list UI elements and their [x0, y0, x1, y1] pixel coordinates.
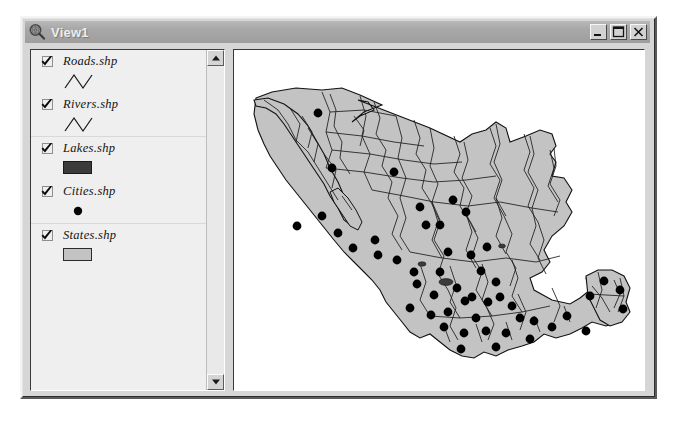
- legend-item-cities[interactable]: Cities.shp: [31, 180, 206, 223]
- city-point: [548, 323, 557, 332]
- window-title: View1: [51, 25, 89, 40]
- legend-scrollbar[interactable]: [206, 50, 224, 390]
- legend-group: States.shp: [31, 224, 206, 267]
- close-button[interactable]: [630, 24, 647, 40]
- legend-item-roads[interactable]: Roads.shp: [31, 50, 206, 93]
- city-point: [600, 277, 609, 286]
- city-point: [422, 221, 431, 230]
- legend-item-lakes[interactable]: Lakes.shp: [31, 137, 206, 180]
- city-point: [484, 298, 493, 307]
- city-point: [502, 329, 511, 338]
- magnifier-globe-icon: [28, 23, 46, 41]
- legend-group: Lakes.shp: [31, 137, 206, 224]
- city-point: [314, 109, 323, 118]
- scroll-down-arrow-icon: [212, 380, 220, 385]
- city-point: [496, 293, 505, 302]
- checkbox-cities[interactable]: [40, 185, 54, 199]
- minimize-button[interactable]: [590, 24, 607, 40]
- city-point: [582, 327, 591, 336]
- city-point: [416, 203, 425, 212]
- city-point: [318, 212, 327, 221]
- checkbox-roads[interactable]: [40, 55, 54, 69]
- city-point: [393, 256, 402, 265]
- check-icon: [39, 228, 55, 244]
- swatch-lakes: [63, 161, 92, 174]
- city-point: [413, 280, 422, 289]
- legend-layer-list[interactable]: Roads.shp: [31, 50, 206, 390]
- city-point: [328, 164, 337, 173]
- view-window: View1: [20, 16, 657, 399]
- legend-group: Roads.shp: [31, 50, 206, 137]
- legend-label-rivers: Rivers.shp: [63, 97, 118, 112]
- scroll-up-button[interactable]: [207, 50, 224, 66]
- legend-row[interactable]: Roads.shp: [31, 53, 206, 70]
- city-point: [371, 236, 380, 245]
- swatch-states: [63, 248, 92, 261]
- zigzag-line-icon: [63, 72, 103, 90]
- city-point: [453, 284, 462, 293]
- city-point: [390, 168, 399, 177]
- city-point: [430, 291, 439, 300]
- check-icon: [39, 97, 55, 113]
- legend-panel: Roads.shp: [30, 49, 225, 391]
- map-view-panel[interactable]: [233, 49, 645, 391]
- legend-symbol-lakes: [31, 157, 206, 178]
- legend-row[interactable]: Cities.shp: [31, 183, 206, 200]
- zigzag-line-icon: [63, 115, 103, 133]
- city-point: [440, 323, 449, 332]
- legend-item-rivers[interactable]: Rivers.shp: [31, 93, 206, 136]
- city-point: [457, 345, 466, 354]
- checkbox-states[interactable]: [40, 229, 54, 243]
- mexico-map[interactable]: [234, 50, 644, 390]
- city-point: [436, 268, 445, 277]
- city-point: [526, 335, 535, 344]
- scroll-up-arrow-icon: [212, 56, 220, 61]
- city-point: [477, 267, 486, 276]
- city-point: [293, 222, 302, 231]
- screenshot-root: View1: [0, 0, 677, 423]
- legend-label-roads: Roads.shp: [63, 54, 117, 69]
- city-point: [492, 278, 501, 287]
- city-point: [483, 243, 492, 252]
- city-point: [619, 305, 628, 314]
- legend-item-states[interactable]: States.shp: [31, 224, 206, 267]
- legend-row[interactable]: Rivers.shp: [31, 96, 206, 113]
- city-point: [410, 268, 419, 277]
- city-point: [462, 208, 471, 217]
- scroll-down-button[interactable]: [207, 374, 224, 390]
- legend-label-lakes: Lakes.shp: [63, 141, 115, 156]
- city-point: [406, 304, 415, 313]
- legend-symbol-cities: [31, 200, 206, 221]
- check-icon: [39, 54, 55, 70]
- city-point: [349, 244, 358, 253]
- city-point: [334, 229, 343, 238]
- window-client-area: Roads.shp: [25, 45, 650, 395]
- legend-symbol-states: [31, 244, 206, 265]
- scrollbar-track[interactable]: [207, 66, 224, 374]
- city-point: [444, 308, 453, 317]
- city-point: [460, 329, 469, 338]
- city-point: [461, 297, 470, 306]
- city-point: [563, 312, 572, 321]
- check-icon: [39, 184, 55, 200]
- legend-symbol-rivers: [31, 113, 206, 134]
- check-icon: [39, 141, 55, 157]
- city-point: [492, 343, 501, 352]
- city-point: [436, 221, 445, 230]
- city-point: [444, 248, 453, 257]
- legend-row[interactable]: States.shp: [31, 227, 206, 244]
- checkbox-lakes[interactable]: [40, 142, 54, 156]
- filled-dot-icon: [63, 202, 103, 220]
- checkbox-rivers[interactable]: [40, 98, 54, 112]
- city-point: [530, 317, 539, 326]
- legend-label-cities: Cities.shp: [63, 184, 116, 199]
- legend-row[interactable]: Lakes.shp: [31, 140, 206, 157]
- city-point: [374, 251, 383, 260]
- legend-label-states: States.shp: [63, 228, 116, 243]
- maximize-button[interactable]: [610, 24, 627, 40]
- legend-symbol-roads: [31, 70, 206, 91]
- city-point: [427, 311, 436, 320]
- city-point: [616, 286, 625, 295]
- title-bar[interactable]: View1: [25, 21, 650, 43]
- window-controls: [589, 24, 650, 40]
